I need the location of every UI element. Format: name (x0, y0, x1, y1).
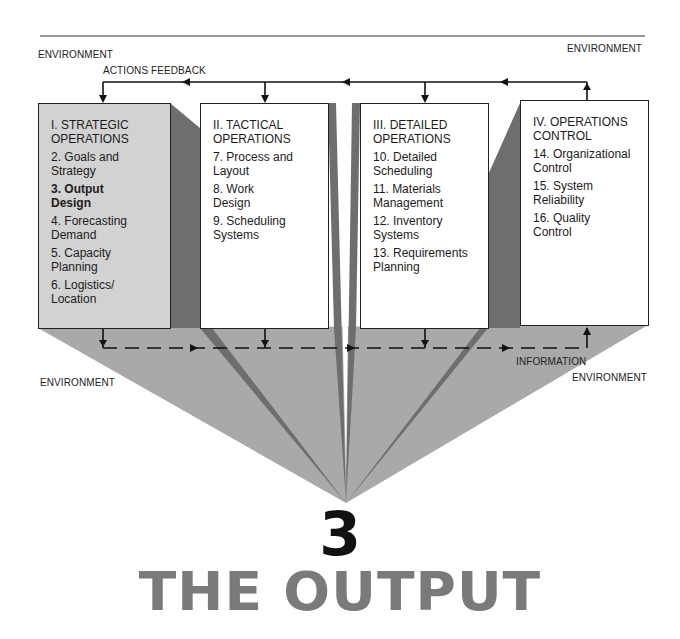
topic-forecasting-demand: 4. ForecastingDemand (51, 214, 170, 242)
topic-materials-management: 11. MaterialsManagement (373, 182, 488, 210)
topic-capacity-planning: 5. CapacityPlanning (51, 246, 170, 274)
box-operations-control: IV. OPERATIONSCONTROL 14. Organizational… (520, 100, 649, 326)
box-title: III. DETAILEDOPERATIONS (373, 118, 488, 146)
topic-scheduling-systems: 9. SchedulingSystems (213, 214, 328, 242)
topic-output-design: 3. OutputDesign (51, 182, 170, 210)
box-detailed-operations: III. DETAILEDOPERATIONS 10. DetailedSche… (360, 103, 489, 329)
environment-label-top-right: ENVIRONMENT (567, 43, 642, 54)
box-title: II. TACTICALOPERATIONS (213, 118, 328, 146)
environment-label-top-left: ENVIRONMENT (38, 49, 113, 60)
topic-inventory-systems: 12. InventorySystems (373, 214, 488, 242)
chapter-number: 3 (0, 504, 680, 564)
topic-detailed-scheduling: 10. DetailedScheduling (373, 150, 488, 178)
box-tactical-operations: II. TACTICALOPERATIONS 7. Process andLay… (200, 103, 329, 329)
box-title: I. STRATEGICOPERATIONS (51, 118, 170, 146)
topic-process-and-layout: 7. Process andLayout (213, 150, 328, 178)
environment-label-bottom-right: ENVIRONMENT (572, 372, 647, 383)
information-label: INFORMATION (516, 356, 586, 367)
box-title: IV. OPERATIONSCONTROL (533, 115, 648, 143)
box-strategic-operations: I. STRATEGICOPERATIONS 2. Goals andStrat… (38, 103, 171, 329)
topic-goals-and-strategy: 2. Goals andStrategy (51, 150, 170, 178)
chapter-title: THE OUTPUT (0, 562, 680, 622)
topic-organizational-control: 14. OrganizationalControl (533, 147, 648, 175)
actions-feedback-label: ACTIONS FEEDBACK (103, 65, 206, 76)
topic-logistics-location: 6. Logistics/Location (51, 278, 170, 306)
topic-work-design: 8. WorkDesign (213, 182, 328, 210)
topic-quality-control: 16. QualityControl (533, 211, 648, 239)
environment-label-bottom-left: ENVIRONMENT (40, 377, 115, 388)
topic-requirements-planning: 13. RequirementsPlanning (373, 246, 488, 274)
actions-feedback-line (103, 82, 587, 101)
topic-system-reliability: 15. SystemReliability (533, 179, 648, 207)
